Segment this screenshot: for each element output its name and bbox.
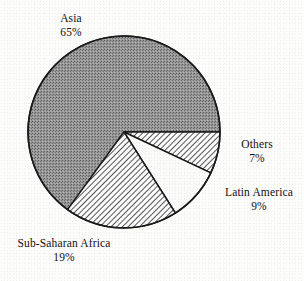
pie-label-latin-america: Latin America 9% <box>216 185 302 213</box>
pie-label-asia-percent: 65% <box>34 25 108 39</box>
pie-label-sub-saharan-africa: Sub-Saharan Africa 19% <box>4 236 124 264</box>
pie-label-sub-saharan-africa-name: Sub-Saharan Africa <box>17 237 110 249</box>
pie-chart <box>26 34 222 230</box>
pie-chart-figure: Asia 65% Others 7% Latin America 9% Sub-… <box>0 0 304 281</box>
pie-label-others-percent: 7% <box>226 151 288 165</box>
pie-chart-svg <box>26 34 222 230</box>
pie-label-latin-america-name: Latin America <box>225 186 293 198</box>
pie-label-latin-america-percent: 9% <box>216 199 302 213</box>
pie-label-asia-name: Asia <box>60 12 82 24</box>
pie-label-asia: Asia 65% <box>34 11 108 39</box>
pie-label-others: Others 7% <box>226 137 288 165</box>
pie-label-others-name: Others <box>241 138 273 150</box>
pie-label-sub-saharan-africa-percent: 19% <box>4 250 124 264</box>
